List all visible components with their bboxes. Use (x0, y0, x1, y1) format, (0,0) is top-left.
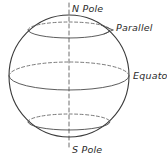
south-pole-label: S Pole (72, 144, 102, 155)
diagram-canvas: N Pole Parallel Equator S Pole (0, 0, 167, 159)
north-pole-label: N Pole (72, 3, 103, 14)
sphere-latitude-diagram: N Pole Parallel Equator S Pole (0, 0, 167, 159)
equator-label: Equator (133, 70, 167, 81)
parallel-label: Parallel (116, 22, 153, 33)
